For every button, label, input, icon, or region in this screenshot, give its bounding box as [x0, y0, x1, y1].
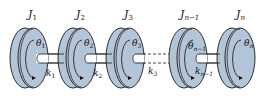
label-J2: J2: [74, 8, 85, 22]
disk-n: [217, 28, 255, 88]
label-Jn-1: Jn−1: [178, 8, 199, 22]
label-k1: k1: [46, 68, 55, 79]
label-J3: J3: [122, 8, 133, 22]
label-Jn: Jn: [234, 8, 245, 22]
label-J1: J1: [26, 8, 37, 22]
torsional-system-diagram: J1 J2 J3 Jn−1 Jn θ1 θ2 θ3 θn−1 θn k1 k2 …: [0, 0, 270, 104]
label-k3: k3: [148, 66, 157, 77]
label-k2: k2: [93, 68, 102, 79]
